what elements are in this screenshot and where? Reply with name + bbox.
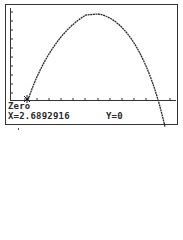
x-coordinate-readout: X=2.6892916 bbox=[8, 111, 70, 121]
x-axis-ticks bbox=[25, 98, 170, 100]
screen-speck bbox=[18, 128, 19, 130]
zero-label: Zero bbox=[8, 101, 30, 111]
y-coordinate-readout: Y=0 bbox=[106, 111, 123, 121]
